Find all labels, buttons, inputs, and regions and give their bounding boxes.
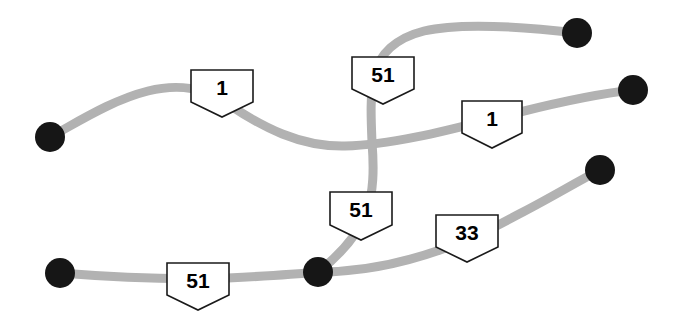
shield-number: 33 [455, 221, 478, 244]
node-west[interactable] [35, 122, 65, 152]
route-shield-33[interactable]: 33 [436, 215, 498, 262]
route-shield-51-south[interactable]: 51 [167, 263, 229, 310]
road-network-diagram: 1 51 1 51 51 33 [0, 0, 684, 315]
shield-number: 51 [186, 269, 210, 292]
route-shield-1-east[interactable]: 1 [462, 101, 522, 148]
node-east[interactable] [618, 75, 648, 105]
node-northeast[interactable] [562, 18, 592, 48]
shield-number: 1 [216, 76, 228, 99]
node-junction[interactable] [303, 257, 333, 287]
road-network-svg: 1 51 1 51 51 33 [0, 0, 684, 315]
road-west-to-east-corridor[interactable] [50, 87, 633, 146]
route-shield-51-north[interactable]: 51 [352, 57, 414, 104]
roads-layer [50, 26, 633, 278]
shield-number: 51 [349, 198, 373, 221]
route-shield-51-middle[interactable]: 51 [330, 192, 392, 240]
shield-number: 51 [371, 63, 395, 86]
shield-number: 1 [486, 107, 498, 130]
node-southwest[interactable] [45, 258, 75, 288]
node-southeast[interactable] [585, 155, 615, 185]
